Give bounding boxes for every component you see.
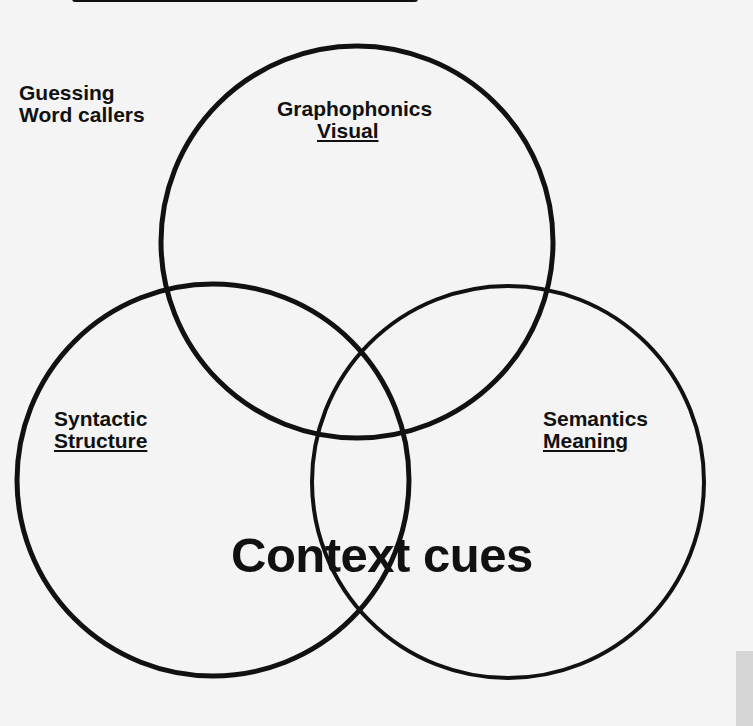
outside-label: Guessing Word callers — [19, 82, 145, 126]
semantics-subtitle: Meaning — [543, 429, 628, 452]
syntactic-subtitle: Structure — [54, 429, 147, 452]
overlap-label: Context cues — [231, 529, 533, 581]
semantics-label: Semantics Meaning — [543, 408, 648, 452]
syntactic-title: Syntactic — [54, 408, 147, 430]
circle-syntactic — [17, 284, 409, 676]
outside-label-line1: Guessing — [19, 82, 145, 104]
graphophonics-title: Graphophonics — [277, 98, 432, 120]
outside-label-line2: Word callers — [19, 104, 145, 126]
semantics-title: Semantics — [543, 408, 648, 430]
graphophonics-subtitle: Visual — [277, 120, 432, 142]
page-edge-block — [736, 651, 753, 726]
syntactic-label: Syntactic Structure — [54, 408, 147, 452]
graphophonics-label: Graphophonics Visual — [277, 98, 432, 142]
circle-semantics — [312, 286, 704, 678]
